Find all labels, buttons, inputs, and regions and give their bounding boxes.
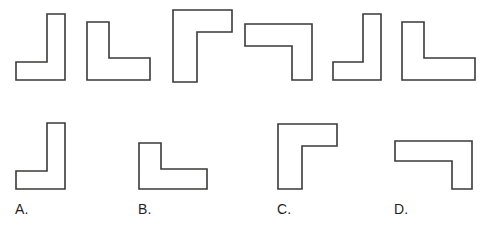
choice-b-label[interactable]: B. [138,202,152,216]
choice-a-label[interactable]: A. [15,202,29,216]
puzzle-page: A.B.C.D. [0,0,481,228]
choice-d-label[interactable]: D. [394,202,408,216]
answer-labels-row: A.B.C.D. [0,0,481,228]
choice-c-label[interactable]: C. [277,202,291,216]
